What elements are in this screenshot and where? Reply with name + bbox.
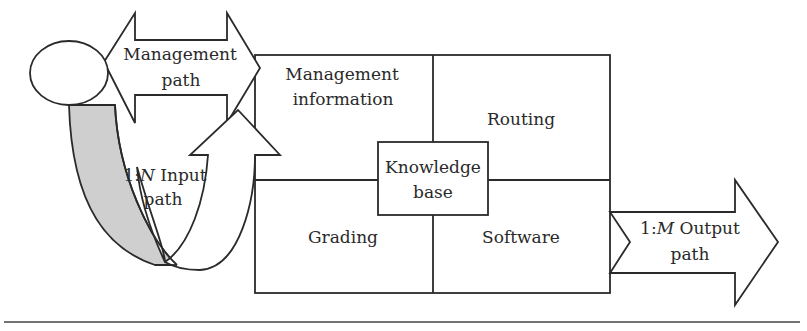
quadrant-management-information-line1: Management	[285, 64, 399, 84]
knowledge-base-label-line1: Knowledge	[385, 157, 481, 177]
output-path-label-line2: path	[671, 244, 710, 264]
quadrant-grading: Grading	[308, 227, 378, 247]
management-path-label-line2: path	[162, 70, 201, 90]
management-path-label-line1: Management	[123, 44, 237, 64]
knowledge-base-label-line2: base	[413, 182, 453, 202]
input-path-label-line2: path	[144, 189, 183, 209]
diagram-canvas: Management path 1:N Input path 1:M Outpu…	[0, 0, 807, 331]
quadrant-routing: Routing	[487, 109, 555, 129]
management-arrow-shape	[104, 13, 260, 123]
knowledge-base-box	[378, 142, 488, 215]
management-path-arrow	[104, 13, 260, 123]
input-path-label-line1: 1:N Input	[123, 165, 206, 185]
quadrant-management-information-line2: information	[293, 89, 394, 109]
source-ellipse	[30, 41, 108, 105]
quadrant-software: Software	[482, 227, 560, 247]
output-path-label-line1: 1:M Output	[640, 218, 740, 238]
input-path-arrow	[69, 105, 280, 270]
output-path-arrow	[610, 180, 778, 305]
output-arrow-shape	[610, 180, 778, 305]
